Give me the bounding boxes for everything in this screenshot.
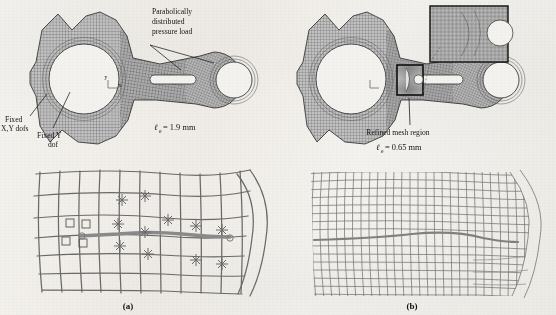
axis-y-label: y — [105, 74, 108, 80]
crack-detail-refined-svg: (b) — [278, 160, 556, 315]
element-size-value-right: = 0.65 mm — [385, 143, 422, 152]
figure-page: x y Parabolically distributed pressure l… — [0, 0, 556, 315]
panel-bottom-left-crack-detail: (a) — [0, 160, 278, 315]
small-bore-hole-refined — [483, 62, 519, 98]
refined-mesh-region-box — [397, 65, 423, 95]
refined-region-label: Refined mesh region — [366, 128, 429, 137]
fixed-xy-label-line1: Fixed — [5, 115, 23, 124]
crack-line-coarse — [80, 233, 230, 238]
crack-detail-coarse-svg: (a) — [0, 160, 278, 315]
tip-enriched-node-asterisks — [112, 190, 228, 270]
coarse-model-svg: x y Parabolically distributed pressure l… — [0, 0, 278, 160]
fixed-y-label-line2: dof — [48, 140, 59, 149]
element-size-value-left: = 1.9 mm — [163, 123, 196, 132]
refined-model-svg: Refined mesh region ℓ e = 0.65 mm — [278, 0, 556, 160]
element-size-symbol-left: ℓ — [154, 123, 158, 132]
pressure-load-label-line2: distributed — [152, 17, 185, 26]
element-size-annotation-left: ℓ e = 1.9 mm — [154, 123, 196, 134]
small-bore-hole — [216, 62, 252, 98]
center-slot-refined — [417, 75, 463, 84]
enriched-node-squares — [62, 219, 90, 247]
element-size-subscript-left: e — [159, 128, 162, 134]
panel-top-right-refined-model: Refined mesh region ℓ e = 0.65 mm — [278, 0, 556, 160]
large-bore-hole-refined — [316, 44, 386, 114]
pressure-load-label-line3: pressure load — [152, 27, 192, 36]
element-size-symbol-right: ℓ — [376, 143, 380, 152]
element-size-annotation-right: ℓ e = 0.65 mm — [376, 143, 422, 154]
caption-a: (a) — [123, 301, 134, 311]
axis-x-label: x — [119, 82, 122, 88]
pressure-load-label-line1: Parabolically — [152, 7, 192, 16]
caption-b: (b) — [407, 301, 418, 311]
refined-mesh-right-boundary — [510, 170, 541, 298]
fixed-xy-label-line2: X,Y dofs — [1, 124, 29, 133]
refined-region-leader — [409, 98, 410, 125]
element-size-subscript-right: e — [381, 148, 384, 154]
center-slot — [150, 75, 196, 84]
panel-top-left-coarse-model: x y Parabolically distributed pressure l… — [0, 0, 278, 160]
large-bore-hole — [49, 44, 119, 114]
refined-mesh-zoom-inset — [430, 6, 513, 62]
fixed-y-label-line1: Fixed Y — [37, 131, 62, 140]
panel-bottom-right-crack-detail: (b) — [278, 160, 556, 315]
